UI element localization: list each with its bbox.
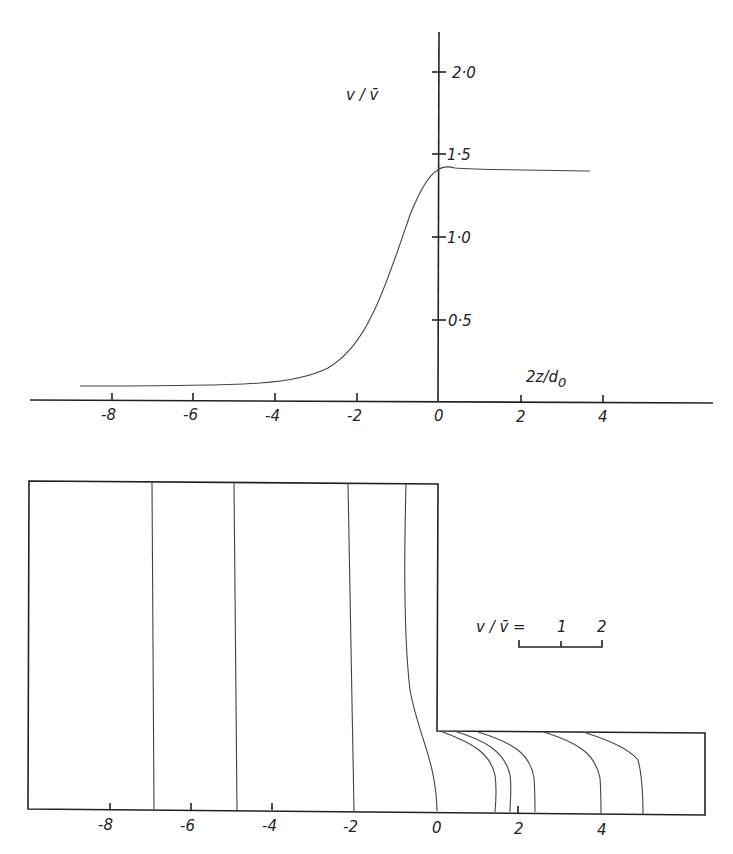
x-axis-label: 2z/d0 [526, 368, 566, 390]
x-tick-label: -4 [262, 817, 277, 835]
y-tick-label: 2·0 [452, 64, 476, 82]
profile-line [440, 731, 496, 812]
x-tick-label: -6 [183, 406, 198, 424]
x-tick-label: 2 [516, 408, 526, 426]
profile-line [234, 482, 237, 810]
y-axis-label: v / v̄ [346, 86, 379, 104]
y-tick-label: 1·0 [447, 229, 471, 247]
y-tick-label: 0·5 [448, 312, 472, 330]
bottom-diagram: -8 -6 -4 -2 0 2 4 v / v̄ = 1 2 [28, 481, 705, 839]
x-axis [30, 400, 713, 403]
velocity-curve [80, 167, 590, 386]
y-axis [438, 32, 439, 401]
x-tick-label: -4 [265, 407, 280, 425]
x-tick-label: 0 [434, 407, 444, 425]
x-tick-label: 0 [432, 819, 442, 837]
scale-tick-1-label: 1 [557, 618, 567, 636]
profile-line [586, 733, 643, 815]
profile-line [348, 483, 354, 811]
x-tick-label: -8 [98, 816, 113, 834]
profile-line [405, 484, 437, 811]
x-tick-label: 2 [514, 820, 524, 838]
profile-line [454, 731, 511, 812]
x-tick-label: -6 [180, 817, 195, 835]
x-tick-label: 4 [598, 408, 608, 426]
velocity-scale: v / v̄ = 1 2 [476, 618, 607, 647]
x-tick-label: 4 [597, 821, 607, 839]
geometry-outline [28, 481, 705, 815]
profile-line [544, 732, 601, 814]
x-tick-label: -8 [101, 406, 116, 424]
x-tick-label: -2 [343, 818, 358, 836]
y-tick-label: 1·5 [447, 146, 471, 164]
velocity-profiles [152, 482, 643, 815]
figure: 2·0 1·5 1·0 0·5 -8 -6 -4 -2 0 2 4 v / v̄… [0, 0, 733, 854]
scale-tick-2-label: 2 [597, 618, 607, 636]
top-chart: 2·0 1·5 1·0 0·5 -8 -6 -4 -2 0 2 4 v / v̄… [30, 32, 713, 426]
profile-line [152, 482, 154, 810]
scale-label: v / v̄ = [476, 618, 526, 636]
x-tick-label: -2 [347, 407, 362, 425]
